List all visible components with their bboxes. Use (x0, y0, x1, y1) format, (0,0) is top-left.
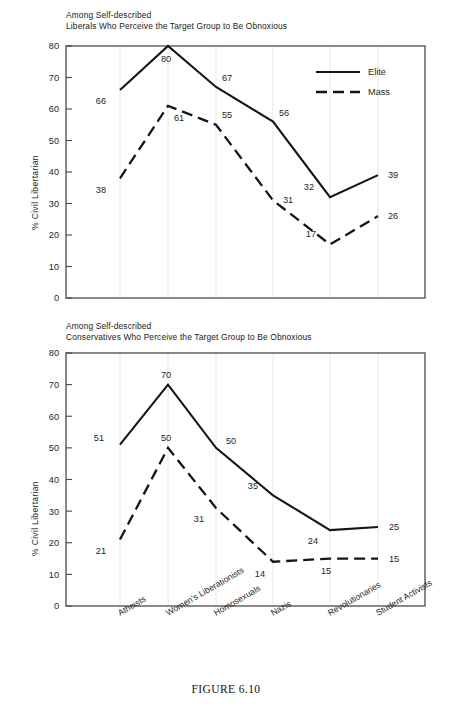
point-label-mass-2: 55 (222, 110, 232, 120)
point-label-elite-2: 50 (226, 436, 236, 446)
y-tick-label-60: 60 (49, 104, 59, 114)
point-label-mass-4: 17 (306, 229, 316, 239)
y-tick-label-0: 0 (54, 601, 59, 611)
point-label-elite-0: 66 (96, 96, 106, 106)
y-tick-label-80: 80 (49, 348, 59, 358)
legend-label-elite: Elite (368, 67, 386, 77)
point-label-elite-4: 24 (308, 536, 318, 546)
plot-area-liberals: 0102030405060708066806756323938615531172… (0, 0, 452, 310)
chart-panel-conservatives: Among Self-described Conservatives Who P… (0, 311, 452, 641)
point-label-elite-0: 51 (94, 433, 104, 443)
legend-label-mass: Mass (368, 87, 390, 97)
point-label-elite-1: 80 (161, 54, 171, 64)
figure-caption: FIGURE 6.10 (0, 683, 452, 695)
point-label-elite-4: 32 (304, 182, 314, 192)
y-tick-label-50: 50 (49, 443, 59, 453)
point-label-mass-1: 50 (161, 433, 171, 443)
y-tick-label-0: 0 (54, 293, 59, 303)
series-line-mass (120, 106, 378, 245)
chart-panel-liberals: Among Self-described Liberals Who Percei… (0, 0, 452, 310)
point-label-elite-3: 56 (279, 108, 289, 118)
point-label-mass-0: 38 (96, 185, 106, 195)
point-label-mass-2: 31 (194, 514, 204, 524)
point-label-mass-5: 26 (388, 211, 398, 221)
figure-6-10: Among Self-described Liberals Who Percei… (0, 0, 452, 711)
y-tick-label-10: 10 (49, 570, 59, 580)
y-tick-label-60: 60 (49, 412, 59, 422)
x-axis-label-1: Women's Liberationists (164, 565, 246, 618)
point-label-elite-2: 67 (222, 73, 232, 83)
y-tick-label-40: 40 (49, 167, 59, 177)
point-label-elite-5: 25 (389, 522, 399, 532)
point-label-mass-5: 15 (389, 554, 399, 564)
point-label-mass-3: 31 (283, 195, 293, 205)
point-label-elite-3: 35 (248, 481, 258, 491)
plot-area-conservatives: 0102030405060708051705035242521503114151… (0, 311, 452, 641)
y-tick-label-50: 50 (49, 136, 59, 146)
point-label-mass-3: 14 (255, 569, 265, 579)
y-tick-label-40: 40 (49, 475, 59, 485)
point-label-elite-1: 70 (161, 370, 171, 380)
y-tick-label-70: 70 (49, 380, 59, 390)
series-line-mass (120, 448, 378, 562)
y-tick-label-30: 30 (49, 199, 59, 209)
point-label-mass-4: 15 (321, 566, 331, 576)
point-label-mass-0: 21 (96, 546, 106, 556)
y-tick-label-30: 30 (49, 507, 59, 517)
y-tick-label-70: 70 (49, 73, 59, 83)
y-tick-label-20: 20 (49, 230, 59, 240)
series-line-elite (120, 385, 378, 530)
point-label-elite-5: 39 (388, 170, 398, 180)
y-axis-title-conservatives: % Civil Libertarian (30, 481, 40, 556)
y-tick-label-10: 10 (49, 262, 59, 272)
x-axis-label-4: Revolutionaries (326, 579, 382, 617)
point-label-mass-1: 61 (174, 113, 184, 123)
y-tick-label-80: 80 (49, 41, 59, 51)
y-tick-label-20: 20 (49, 538, 59, 548)
y-axis-title-liberals: % Civil Libertarian (30, 155, 40, 230)
